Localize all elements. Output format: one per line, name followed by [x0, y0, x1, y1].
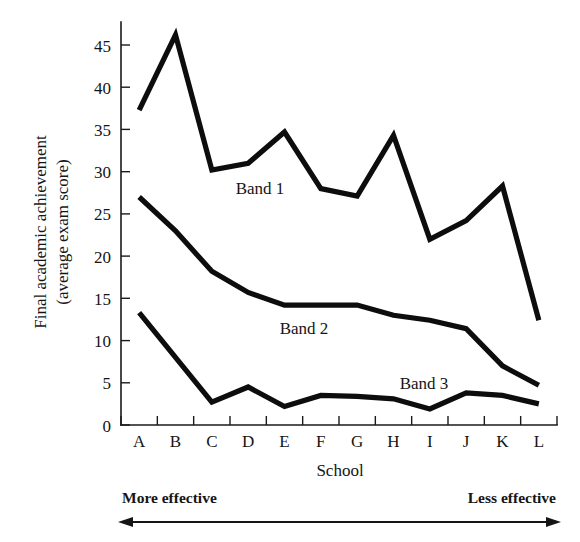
x-tick-label-g: G	[351, 432, 363, 451]
y-tick-label-5: 5	[103, 374, 112, 393]
series-label-band-2: Band 2	[280, 319, 329, 338]
more-effective-label: More effective	[122, 489, 217, 506]
x-axis-ticks	[121, 416, 557, 425]
y-tick-label-15: 15	[94, 290, 111, 309]
y-tick-label-25: 25	[94, 205, 111, 224]
y-axis-title-line2: (average exam score)	[53, 159, 72, 304]
x-tick-label-b: B	[170, 432, 181, 451]
y-tick-label-10: 10	[94, 332, 111, 351]
y-tick-label-0: 0	[103, 417, 112, 436]
chart-container: Final academic achievement (average exam…	[0, 0, 580, 542]
x-tick-label-a: A	[133, 432, 146, 451]
series-line-band-2	[139, 197, 539, 385]
arrow-head-right-icon	[546, 517, 561, 527]
x-tick-label-i: I	[427, 432, 433, 451]
x-tick-label-k: K	[496, 432, 509, 451]
y-tick-label-20: 20	[94, 248, 111, 267]
y-axis-title-line1: Final academic achievement	[31, 135, 50, 329]
y-tick-label-30: 30	[94, 163, 111, 182]
series-line-band-1	[139, 35, 539, 320]
x-tick-label-h: H	[387, 432, 399, 451]
series-label-band-1: Band 1	[236, 179, 285, 198]
x-axis-title: School	[316, 461, 364, 480]
x-tick-label-e: E	[279, 432, 289, 451]
y-axis-title: Final academic achievement (average exam…	[31, 135, 72, 329]
y-tick-label-45: 45	[94, 37, 111, 56]
effectiveness-arrow	[118, 517, 561, 527]
x-tick-label-l: L	[534, 432, 544, 451]
y-axis-ticks: 0 5 10 15 20 25 30 35 40 45	[94, 37, 130, 436]
series-line-band-3	[139, 313, 539, 409]
y-tick-label-35: 35	[94, 121, 111, 140]
x-tick-label-j: J	[463, 432, 470, 451]
x-tick-label-f: F	[316, 432, 325, 451]
less-effective-label: Less effective	[468, 489, 556, 506]
y-tick-label-40: 40	[94, 79, 111, 98]
line-chart-figure: Final academic achievement (average exam…	[0, 0, 580, 542]
x-tick-label-d: D	[242, 432, 254, 451]
arrow-head-left-icon	[118, 517, 133, 527]
series-group	[139, 35, 539, 409]
series-label-band-3: Band 3	[400, 374, 449, 393]
x-axis-tick-labels: ABCDEFGHIJKL	[133, 432, 544, 451]
x-tick-label-c: C	[206, 432, 217, 451]
